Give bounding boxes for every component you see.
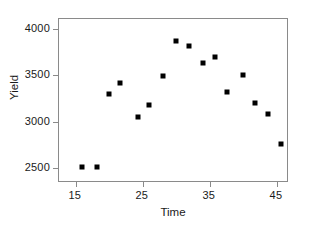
y-axis-title: Yield — [8, 75, 20, 100]
data-point — [252, 101, 257, 106]
x-axis-tick — [143, 181, 144, 187]
data-point — [278, 141, 283, 146]
y-axis-tick — [53, 29, 59, 30]
data-point — [200, 60, 205, 65]
data-point — [136, 115, 141, 120]
data-point — [95, 164, 100, 169]
data-point — [187, 44, 192, 49]
plot-area — [59, 19, 287, 181]
y-axis-tick — [53, 75, 59, 76]
data-point — [80, 165, 85, 170]
x-axis-title: Time — [58, 206, 288, 218]
x-axis-tick-label: 35 — [203, 189, 216, 201]
data-point — [241, 73, 246, 78]
x-axis-tick-labels: 15253545 — [58, 189, 288, 205]
x-axis-tick-label: 25 — [135, 189, 148, 201]
y-axis-tick-labels: 2500300035004000 — [0, 18, 50, 182]
x-axis-tick — [76, 181, 77, 187]
y-axis-tick-label: 3500 — [25, 68, 50, 80]
x-axis-tick — [277, 181, 278, 187]
data-point — [265, 111, 270, 116]
scatter-chart-figure: 2500300035004000 Yield 15253545 Time — [0, 0, 312, 233]
plot-frame — [58, 18, 288, 182]
data-point — [107, 91, 112, 96]
data-point — [146, 102, 151, 107]
y-axis-tick — [53, 122, 59, 123]
y-axis-tick — [53, 168, 59, 169]
data-point — [118, 81, 123, 86]
y-axis-tick-label: 4000 — [25, 22, 50, 34]
data-point — [212, 55, 217, 60]
y-axis-tick-label: 2500 — [25, 161, 50, 173]
data-point — [160, 74, 165, 79]
data-point — [225, 89, 230, 94]
x-axis-tick — [210, 181, 211, 187]
x-axis-tick-label: 45 — [270, 189, 283, 201]
x-axis-tick-label: 15 — [68, 189, 81, 201]
data-point — [174, 38, 179, 43]
y-axis-tick-label: 3000 — [25, 115, 50, 127]
